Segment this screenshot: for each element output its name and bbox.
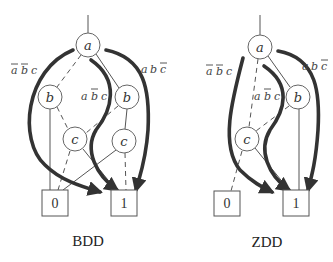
- svg-text:b: b: [91, 90, 98, 103]
- node-label: c: [71, 132, 79, 147]
- svg-text:b: b: [216, 65, 223, 78]
- bdd-node-b-right: b: [115, 85, 139, 109]
- bdd-node-c-right: c: [112, 129, 136, 153]
- node-label: c: [243, 132, 251, 147]
- zdd-terminal-1: 1: [283, 190, 309, 216]
- svg-text:b: b: [311, 60, 318, 73]
- node-label: a: [84, 38, 92, 53]
- svg-text:b: b: [264, 90, 271, 103]
- zdd-node-b: b: [286, 85, 310, 109]
- svg-text:a: a: [302, 60, 309, 73]
- bdd-path-label-a-bbar-c: a b c: [81, 89, 107, 103]
- svg-text:b: b: [150, 63, 157, 76]
- bdd-edge-b2-c2-high: [125, 109, 127, 129]
- svg-text:c: c: [226, 65, 232, 78]
- bdd-edge-c2-1-low: [125, 153, 126, 190]
- bdd-edge-c1-0-low: [58, 151, 70, 190]
- svg-text:c: c: [31, 64, 37, 77]
- svg-text:c: c: [321, 60, 327, 73]
- svg-text:a: a: [11, 64, 18, 77]
- terminal-label: 1: [293, 196, 300, 211]
- terminal-label: 0: [224, 196, 231, 211]
- bdd-edge-a-b1-low: [57, 55, 81, 87]
- bdd-diagram: a b b c c 0: [11, 15, 167, 249]
- diagram-canvas: a b b c c 0: [0, 0, 333, 262]
- node-label: c: [120, 134, 128, 149]
- bdd-node-a: a: [76, 33, 100, 57]
- zdd-terminal-0: 0: [214, 191, 240, 216]
- svg-text:c: c: [160, 63, 166, 76]
- zdd-node-a: a: [248, 35, 272, 59]
- bdd-node-b-left: b: [38, 85, 62, 109]
- svg-text:c: c: [101, 90, 107, 103]
- bdd-edges: [50, 54, 127, 190]
- bdd-path-label-abar-bbar-c: a b c: [11, 64, 37, 77]
- terminal-label: 0: [52, 196, 59, 211]
- zdd-path-label-abar-bbar-c: a b c: [206, 65, 232, 78]
- zdd-node-c: c: [235, 127, 259, 151]
- terminal-label: 1: [121, 196, 128, 211]
- bdd-terminal-1: 1: [111, 190, 137, 216]
- svg-text:a: a: [206, 65, 213, 78]
- zdd-path-arrow-a-bbar-c: [264, 66, 289, 190]
- svg-text:a: a: [254, 90, 261, 103]
- svg-text:b: b: [21, 64, 28, 77]
- node-label: b: [46, 90, 54, 105]
- zdd-caption: ZDD: [252, 234, 283, 250]
- bdd-path-label-a-b-cbar: a b c: [141, 63, 167, 76]
- zdd-path-arrow-abar-bbar-c: [229, 58, 272, 192]
- svg-text:c: c: [274, 90, 280, 103]
- bdd-terminal-0: 0: [42, 190, 68, 216]
- svg-text:a: a: [141, 63, 148, 76]
- zdd-path-label-a-bbar-c: a b c: [254, 89, 280, 103]
- node-label: b: [294, 90, 302, 105]
- bdd-edge-b1-c1-low: [57, 107, 68, 129]
- bdd-node-c-left: c: [63, 127, 87, 151]
- zdd-diagram: a b c 0 1 a b c: [206, 15, 328, 250]
- svg-text:a: a: [81, 90, 88, 103]
- bdd-caption: BDD: [72, 233, 104, 249]
- node-label: b: [123, 90, 131, 105]
- zdd-path-label-a-b-cbar: a b c: [302, 60, 328, 73]
- node-label: a: [256, 40, 264, 55]
